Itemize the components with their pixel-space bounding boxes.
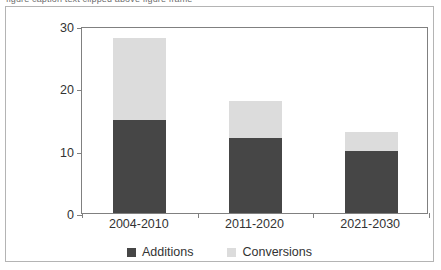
bar-segment-conversions	[113, 38, 166, 119]
clipped-caption-sliver: figure caption text clipped above figure…	[0, 0, 441, 5]
bar-segment-additions	[113, 120, 166, 214]
legend-swatch-conversions	[227, 248, 236, 257]
y-axis-tick-mark	[77, 153, 82, 154]
x-axis-tick-label: 2021-2030	[310, 217, 430, 231]
y-axis-tick-mark	[77, 90, 82, 91]
bar-segment-additions	[229, 138, 282, 213]
y-axis-tick-label: 30	[60, 21, 74, 35]
plot-area: 0102030	[81, 27, 428, 214]
clipped-caption-text: figure caption text clipped above figure…	[6, 0, 193, 4]
legend-item: Conversions	[227, 245, 311, 259]
legend-label: Conversions	[242, 245, 311, 259]
x-axis-tick-label: 2011-2020	[195, 217, 315, 231]
y-axis-tick-mark	[77, 28, 82, 29]
y-axis-tick-label: 20	[60, 83, 74, 97]
bar-segment-conversions	[229, 101, 282, 138]
chart-legend: AdditionsConversions	[6, 245, 433, 259]
y-axis-tick-label: 10	[60, 146, 74, 160]
y-axis-tick-label: 0	[67, 208, 74, 222]
bar-segment-conversions	[345, 132, 398, 151]
x-axis-tick-label: 2004-2010	[79, 217, 199, 231]
bar-segment-additions	[345, 151, 398, 213]
figure-outer-frame: billion dollars (2004) per year 0102030 …	[5, 6, 434, 262]
legend-item: Additions	[127, 245, 193, 259]
legend-label: Additions	[142, 245, 193, 259]
legend-swatch-additions	[127, 248, 136, 257]
figure-container: figure caption text clipped above figure…	[0, 0, 441, 270]
